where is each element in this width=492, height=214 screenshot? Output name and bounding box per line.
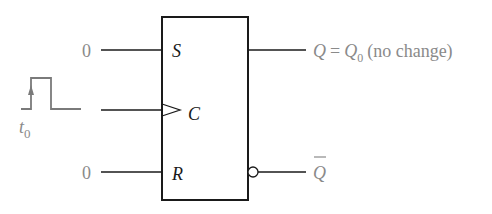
clock-time-label: t0 [19,117,31,141]
inversion-bubble-icon [248,167,258,177]
q-output-annotation: Q=Q0(no change) [313,41,453,65]
r-input-value: 0 [82,163,91,183]
r-pin-label: R [171,164,183,184]
qbar-output-label: Q [313,163,326,183]
s-input-value: 0 [82,41,91,61]
s-pin-label: S [172,41,181,61]
flip-flop-diagram: 0 S C t0 0 R Q=Q0(no change) Q [0,0,492,214]
clock-triangle-icon [162,104,180,116]
c-pin-label: C [188,104,201,124]
rising-edge-arrow-icon [28,85,34,95]
